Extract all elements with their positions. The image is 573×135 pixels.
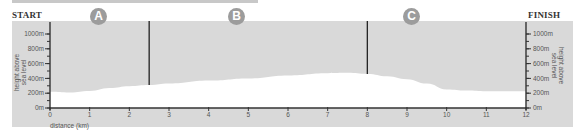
x-tick-label: 12 bbox=[522, 111, 530, 118]
y-tick-label-left: 0m bbox=[35, 104, 44, 111]
y-axis-label-right: height above sea level bbox=[551, 47, 565, 84]
elevation-profile-area bbox=[50, 73, 526, 108]
y-tick-label-right: 400m bbox=[533, 75, 549, 82]
y-tick-label-left: 200m bbox=[28, 89, 44, 96]
x-tick-label: 2 bbox=[128, 111, 132, 118]
x-tick-label: 3 bbox=[167, 111, 171, 118]
x-axis-label: distance (km) bbox=[50, 122, 89, 130]
y-axis-label-left-line1: height above bbox=[13, 54, 20, 91]
y-axis-label-right-line2: sea level bbox=[551, 47, 558, 84]
y-tick-label-right: 200m bbox=[533, 89, 549, 96]
elevation-profile-chart: 01234567891011120m0m200m200m400m400m600m… bbox=[0, 0, 573, 135]
y-tick-label-left: 1000m bbox=[24, 30, 44, 37]
y-tick-label-right: 1000m bbox=[533, 30, 553, 37]
x-tick-label: 10 bbox=[443, 111, 451, 118]
y-axis-label-right-line1: height above bbox=[558, 47, 565, 84]
x-tick-label: 8 bbox=[366, 111, 370, 118]
x-tick-label: 7 bbox=[326, 111, 330, 118]
x-tick-label: 6 bbox=[286, 111, 290, 118]
y-tick-label-right: 800m bbox=[533, 45, 549, 52]
y-axis-label-left: height above sea level bbox=[13, 54, 27, 91]
x-tick-label: 0 bbox=[48, 111, 52, 118]
x-tick-label: 11 bbox=[483, 111, 490, 118]
y-tick-label-right: 0m bbox=[533, 104, 542, 111]
x-tick-label: 9 bbox=[405, 111, 409, 118]
y-axis-label-left-line2: sea level bbox=[20, 54, 27, 91]
y-tick-label-left: 600m bbox=[28, 60, 44, 67]
x-tick-label: 5 bbox=[247, 111, 251, 118]
y-tick-label-left: 400m bbox=[28, 75, 44, 82]
x-tick-label: 4 bbox=[207, 111, 211, 118]
y-tick-label-right: 600m bbox=[533, 60, 549, 67]
x-tick-label: 1 bbox=[88, 111, 92, 118]
y-tick-label-left: 800m bbox=[28, 45, 44, 52]
